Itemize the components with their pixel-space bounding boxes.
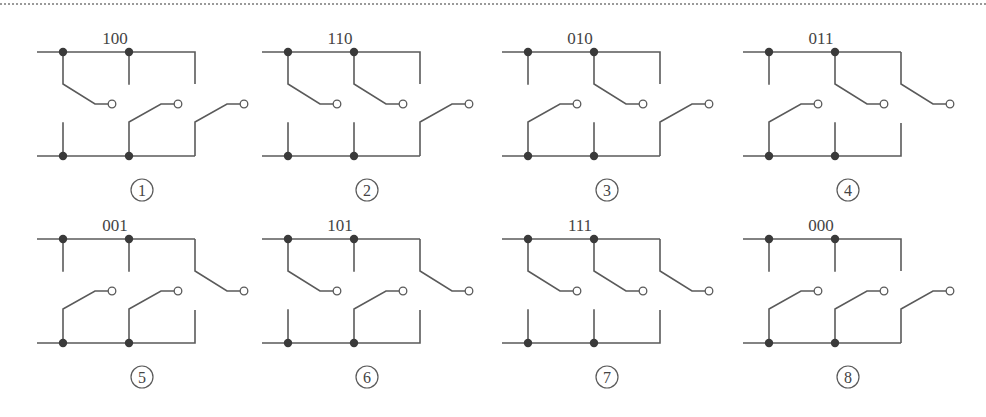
state-code-label: 010 xyxy=(567,29,593,48)
open-terminal-icon xyxy=(174,287,182,295)
junction-dot xyxy=(125,235,133,243)
junction-dot xyxy=(59,48,67,56)
bottom-rail xyxy=(37,310,195,343)
switch-blade-top-2 xyxy=(354,52,399,104)
switch-blade-top-2 xyxy=(835,52,880,104)
switch-blade-top-1 xyxy=(63,52,108,104)
switch-blade-bottom-1 xyxy=(769,291,814,343)
junction-dot xyxy=(284,48,292,56)
state-code-label: 101 xyxy=(327,216,353,235)
switch-panel-8: 0008 xyxy=(743,216,954,388)
open-terminal-icon xyxy=(333,287,341,295)
open-terminal-icon xyxy=(639,100,647,108)
junction-dot xyxy=(350,48,358,56)
junction-dot xyxy=(59,235,67,243)
open-terminal-icon xyxy=(705,100,713,108)
junction-dot xyxy=(831,152,839,160)
switch-panel-7: 1117 xyxy=(502,216,713,388)
switch-blade-top-1 xyxy=(288,239,333,291)
open-terminal-icon xyxy=(465,100,473,108)
switch-panel-5: 0015 xyxy=(37,216,248,388)
state-code-label: 110 xyxy=(328,29,353,48)
open-terminal-icon xyxy=(240,287,248,295)
state-code-label: 100 xyxy=(102,29,128,48)
junction-dot xyxy=(284,339,292,347)
switch-blade-top-3 xyxy=(660,239,705,291)
switch-configuration-diagram: 10011102010301140015101611170008 xyxy=(0,0,986,417)
top-rail xyxy=(37,52,195,84)
switch-blade-bottom-2 xyxy=(129,291,174,343)
junction-dot xyxy=(524,48,532,56)
switch-blade-top-3 xyxy=(901,52,946,104)
junction-dot xyxy=(125,48,133,56)
state-code-label: 001 xyxy=(102,216,128,235)
open-terminal-icon xyxy=(399,287,407,295)
top-rail xyxy=(743,239,901,271)
junction-dot xyxy=(350,235,358,243)
panel-number-label: 7 xyxy=(603,369,611,386)
top-rail xyxy=(502,52,660,84)
open-terminal-icon xyxy=(399,100,407,108)
switch-blade-top-2 xyxy=(594,52,639,104)
junction-dot xyxy=(350,339,358,347)
junction-dot xyxy=(524,339,532,347)
switch-panel-6: 1016 xyxy=(262,216,473,388)
open-terminal-icon xyxy=(705,287,713,295)
junction-dot xyxy=(59,339,67,347)
switch-blade-bottom-3 xyxy=(901,291,946,343)
junction-dot xyxy=(765,152,773,160)
switch-blade-top-1 xyxy=(528,239,573,291)
switch-blade-bottom-1 xyxy=(63,291,108,343)
junction-dot xyxy=(524,152,532,160)
panel-number-label: 2 xyxy=(363,182,371,199)
panel-number-label: 1 xyxy=(138,182,146,199)
junction-dot xyxy=(590,152,598,160)
switch-blade-top-3 xyxy=(420,239,465,291)
junction-dot xyxy=(59,152,67,160)
open-terminal-icon xyxy=(573,287,581,295)
open-terminal-icon xyxy=(240,100,248,108)
panel-number-label: 4 xyxy=(844,182,852,199)
switch-panel-1: 1001 xyxy=(37,29,248,201)
switch-blade-bottom-3 xyxy=(660,104,705,156)
junction-dot xyxy=(350,152,358,160)
switch-blade-bottom-2 xyxy=(354,291,399,343)
switch-blade-bottom-1 xyxy=(528,104,573,156)
switch-blade-top-2 xyxy=(594,239,639,291)
bottom-rail xyxy=(262,310,420,343)
switch-panel-4: 0114 xyxy=(743,29,954,201)
top-rail xyxy=(262,52,420,84)
state-code-label: 000 xyxy=(808,216,834,235)
junction-dot xyxy=(831,48,839,56)
switch-blade-top-1 xyxy=(288,52,333,104)
switch-blade-top-3 xyxy=(195,239,240,291)
switch-panel-3: 0103 xyxy=(502,29,713,201)
open-terminal-icon xyxy=(880,100,888,108)
open-terminal-icon xyxy=(174,100,182,108)
bottom-rail xyxy=(743,123,901,156)
junction-dot xyxy=(590,235,598,243)
open-terminal-icon xyxy=(880,287,888,295)
open-terminal-icon xyxy=(814,100,822,108)
junction-dot xyxy=(284,235,292,243)
panel-number-label: 5 xyxy=(138,369,146,386)
open-terminal-icon xyxy=(108,100,116,108)
junction-dot xyxy=(765,235,773,243)
open-terminal-icon xyxy=(946,287,954,295)
panel-number-label: 3 xyxy=(603,182,611,199)
state-code-label: 011 xyxy=(809,29,834,48)
junction-dot xyxy=(765,339,773,347)
junction-dot xyxy=(125,339,133,347)
junction-dot xyxy=(831,339,839,347)
open-terminal-icon xyxy=(946,100,954,108)
switch-blade-bottom-2 xyxy=(835,291,880,343)
open-terminal-icon xyxy=(814,287,822,295)
open-terminal-icon xyxy=(465,287,473,295)
junction-dot xyxy=(831,235,839,243)
junction-dot xyxy=(125,152,133,160)
junction-dot xyxy=(590,339,598,347)
switch-blade-bottom-3 xyxy=(195,104,240,156)
open-terminal-icon xyxy=(639,287,647,295)
panel-number-label: 6 xyxy=(363,369,371,386)
switch-blade-bottom-2 xyxy=(129,104,174,156)
